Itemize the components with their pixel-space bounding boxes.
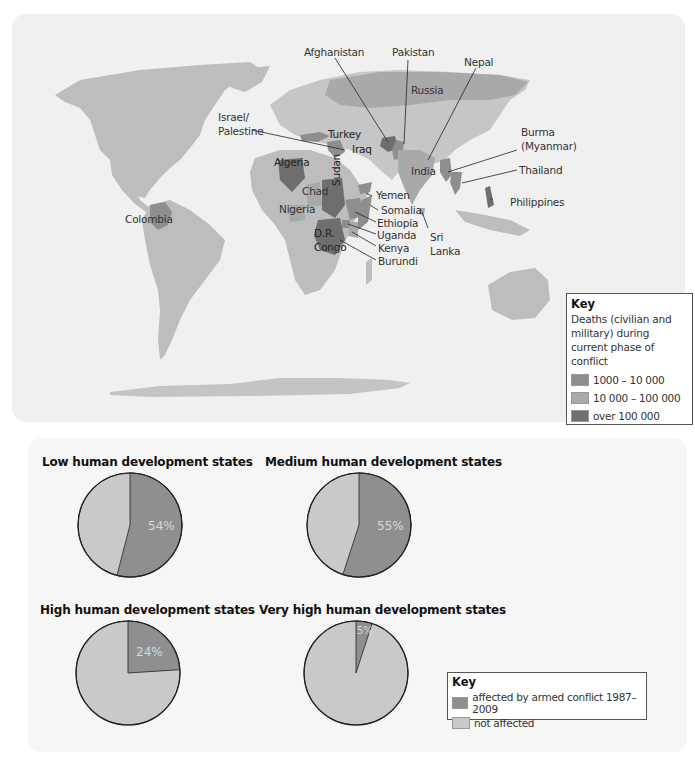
map-key-item-high: over 100 000 — [571, 410, 688, 422]
pie-very-high: 5% — [302, 618, 410, 728]
label-chad: Chad — [302, 185, 328, 197]
label-uganda: Uganda — [377, 229, 416, 241]
label-israel-line1: Israel/ — [218, 111, 249, 123]
pie-title-very-high: Very high human development states — [259, 603, 506, 617]
pie-title-medium: Medium human development states — [265, 455, 502, 469]
swatch-low — [571, 374, 589, 386]
map-key-label-high: over 100 000 — [593, 410, 660, 422]
indonesia — [455, 210, 530, 236]
label-burma: Burma(Myanmar) — [521, 125, 577, 153]
map-key-item-mid: 10 000 – 100 000 — [571, 392, 688, 404]
label-russia: Russia — [411, 84, 444, 96]
pie-key-label-not-affected: not affected — [474, 717, 534, 729]
label-drc-line2: Congo — [314, 241, 347, 253]
label-nepal: Nepal — [464, 56, 493, 68]
philippines — [485, 186, 494, 208]
label-israel-palestine: Israel/Palestine — [218, 110, 264, 138]
australia — [488, 268, 550, 320]
label-burma-line2: (Myanmar) — [521, 140, 577, 152]
label-srilanka-line1: Sri — [430, 231, 443, 243]
label-algeria: Algeria — [274, 156, 310, 168]
label-kenya: Kenya — [378, 242, 409, 254]
label-sri-lanka: SriLanka — [430, 230, 460, 258]
label-sudan: Sudan — [330, 154, 342, 186]
label-afghanistan: Afghanistan — [304, 46, 364, 58]
label-drc-line1: D.R. — [314, 227, 335, 239]
label-somalia: Somalia — [381, 204, 422, 216]
label-israel-line2: Palestine — [218, 125, 264, 137]
thailand — [450, 172, 462, 195]
label-philippines: Philippines — [510, 196, 564, 208]
madagascar — [366, 258, 372, 285]
label-burundi: Burundi — [378, 255, 418, 267]
pie-label-very-high: 5% — [357, 625, 373, 636]
label-colombia: Colombia — [125, 213, 173, 225]
map-key-description: Deaths (civilian and military) during cu… — [571, 312, 688, 368]
label-ethiopia: Ethiopia — [377, 217, 418, 229]
swatch-mid — [571, 392, 589, 404]
swatch-not-affected — [452, 717, 470, 729]
burma — [440, 158, 452, 182]
yemen — [358, 182, 372, 194]
pie-label-high: 24% — [136, 645, 163, 659]
label-burma-line1: Burma — [521, 126, 555, 138]
label-srilanka-line2: Lanka — [430, 245, 460, 257]
map-key-label-mid: 10 000 – 100 000 — [593, 392, 680, 404]
label-india: India — [411, 165, 436, 177]
swatch-affected — [452, 697, 468, 709]
map-key: Key Deaths (civilian and military) durin… — [566, 293, 693, 425]
label-thailand: Thailand — [519, 164, 563, 176]
label-turkey: Turkey — [328, 128, 361, 140]
pie-title-low: Low human development states — [42, 455, 253, 469]
pie-key-item-affected: affected by armed conflict 1987–2009 — [452, 691, 642, 715]
map-key-item-low: 1000 – 10 000 — [571, 374, 688, 386]
map-key-title: Key — [571, 297, 688, 311]
pie-key-title: Key — [452, 675, 642, 689]
label-drcongo: D.R.Congo — [314, 226, 347, 254]
antarctica — [110, 378, 410, 397]
pie-key-item-not-affected: not affected — [452, 717, 642, 729]
pie-label-low: 54% — [148, 519, 175, 533]
label-pakistan: Pakistan — [392, 46, 434, 58]
swatch-high — [571, 410, 589, 422]
pie-key-label-affected: affected by armed conflict 1987–2009 — [472, 691, 642, 715]
pie-key: Key affected by armed conflict 1987–2009… — [447, 672, 647, 720]
pie-low: 54% — [76, 470, 184, 580]
pie-title-high: High human development states — [40, 603, 255, 617]
pie-label-medium: 55% — [377, 519, 404, 533]
pie-high: 24% — [74, 618, 182, 728]
label-nigeria: Nigeria — [279, 203, 315, 215]
label-yemen: Yemen — [376, 189, 410, 201]
pie-medium: 55% — [305, 470, 413, 580]
map-key-label-low: 1000 – 10 000 — [593, 374, 665, 386]
label-iraq: Iraq — [352, 143, 372, 155]
